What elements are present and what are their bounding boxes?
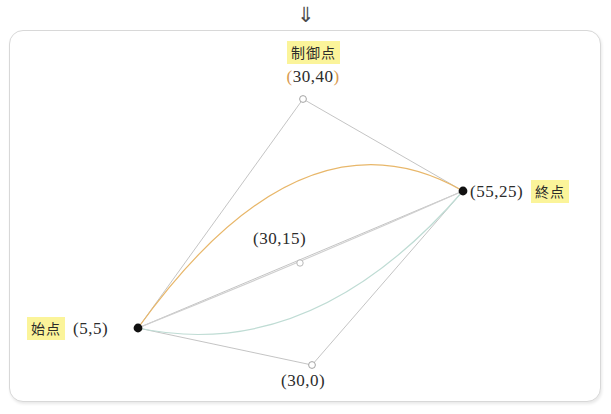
start-point-coordinate: (5,5) <box>73 319 108 339</box>
control-point-coordinate: (30,40) <box>258 67 368 87</box>
end-point-badge: 終点 <box>531 180 569 203</box>
diagram-root: ⇓ 制御点 (30,40) (55,25) 終点 始点 <box>0 0 611 414</box>
double-down-arrow-icon: ⇓ <box>297 5 315 26</box>
control-low-label-group: (30,0) <box>281 371 325 391</box>
control-low-coordinate: (30,0) <box>281 371 325 390</box>
control-point-badge: 制御点 <box>287 41 340 64</box>
end-point-label-group: (55,25) 終点 <box>470 180 569 203</box>
control-mid-coordinate: (30,15) <box>253 229 306 248</box>
control-point-label-group: 制御点 (30,40) <box>258 41 368 87</box>
start-point-label-group: 始点 (5,5) <box>27 317 108 340</box>
start-point-badge: 始点 <box>27 317 65 340</box>
end-point-coordinate: (55,25) <box>470 182 523 202</box>
double-down-arrow-wrap: ⇓ <box>0 0 611 30</box>
control-mid-label-group: (30,15) <box>253 229 306 249</box>
